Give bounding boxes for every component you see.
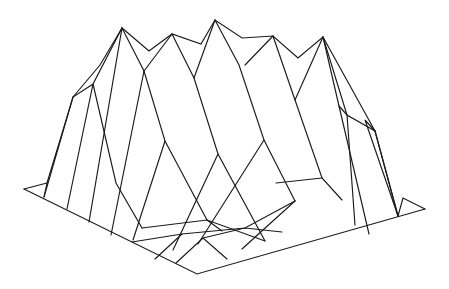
mesh-line [276, 178, 322, 183]
mesh-line [194, 20, 215, 78]
mesh-line [245, 36, 273, 65]
mesh-line [172, 34, 265, 241]
figure-canvas [0, 0, 449, 289]
mesh-line [133, 141, 165, 240]
mesh-line [323, 37, 369, 234]
mesh-line [144, 34, 172, 71]
mesh-line [44, 97, 73, 197]
mesh-line [111, 71, 144, 235]
mesh-line [295, 37, 323, 100]
mesh-line [375, 131, 398, 216]
mesh-line [365, 120, 398, 216]
surface-ridge-right-inner [323, 37, 375, 131]
surface-ridge [47, 20, 398, 216]
mesh-line [67, 84, 142, 228]
wireframe-surface-plot [0, 0, 449, 289]
mesh-line [273, 36, 342, 200]
wireframe-mesh [24, 20, 425, 274]
surface-ridge-inner [73, 28, 122, 97]
mesh-line [215, 20, 295, 201]
front-facet-line [176, 238, 227, 263]
